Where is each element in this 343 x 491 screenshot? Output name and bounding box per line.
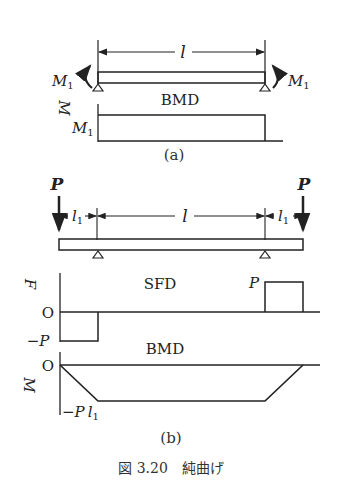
- sfd-axis-label: F: [21, 278, 39, 290]
- figure-caption: 図 3.20 純曲げ: [118, 460, 224, 476]
- sublabel-a: (a): [164, 146, 185, 164]
- moment-arrow-left-icon: [85, 66, 92, 88]
- bmd-axis-label-a: M: [55, 99, 73, 116]
- bmd-rectangle-a: [98, 115, 265, 141]
- bmd-title-b: BMD: [146, 340, 184, 358]
- beam: [98, 72, 265, 83]
- load-left-label: P: [50, 174, 65, 194]
- bmd-axis-label-b: M: [20, 376, 38, 393]
- span-length-label: l: [180, 42, 185, 62]
- sfd-title: SFD: [144, 275, 177, 293]
- moment-arrow-right-icon: [273, 66, 278, 88]
- moment-right-label: M1: [287, 72, 310, 91]
- beam-b: [59, 239, 303, 250]
- overhang-left-label: l1: [72, 207, 83, 226]
- overhang-right-label: l1: [278, 207, 289, 226]
- sfd-positive-label: P: [248, 274, 260, 292]
- bending-moment-diagram-b: BMD O M −Pl1 (b): [20, 340, 320, 447]
- support-right-triangle-icon: [260, 84, 270, 91]
- support-left-triangle-icon: [93, 84, 103, 91]
- support-b-left-triangle-icon: [93, 251, 103, 258]
- sfd-negative-block: [60, 312, 98, 341]
- sfd-positive-block: [265, 282, 303, 312]
- pure-bending-figure: l M1 M1 BMD M M1 (a) P P l1 l l1: [0, 0, 343, 491]
- moment-left-label: M1: [51, 72, 74, 91]
- sfd-negative-label: −P: [27, 332, 51, 350]
- bmd-min-label: −Pl1: [62, 403, 99, 422]
- sublabel-b: (b): [160, 429, 181, 447]
- span-length-label-b: l: [182, 206, 187, 226]
- support-b-right-triangle-icon: [260, 251, 270, 258]
- sfd-zero-label: O: [42, 304, 54, 322]
- bmd-trapezoid: [60, 365, 303, 401]
- bmd-zero-label-b: O: [42, 357, 54, 375]
- part-b-beam-diagram: P P l1 l l1: [50, 174, 312, 258]
- shear-force-diagram: SFD F O −P P: [21, 273, 320, 350]
- bmd-title-a: BMD: [161, 91, 199, 109]
- bmd-value-label-a: M1: [71, 119, 94, 138]
- part-a-beam-diagram: l M1 M1 BMD M M1 (a): [51, 40, 310, 164]
- load-right-label: P: [297, 174, 312, 194]
